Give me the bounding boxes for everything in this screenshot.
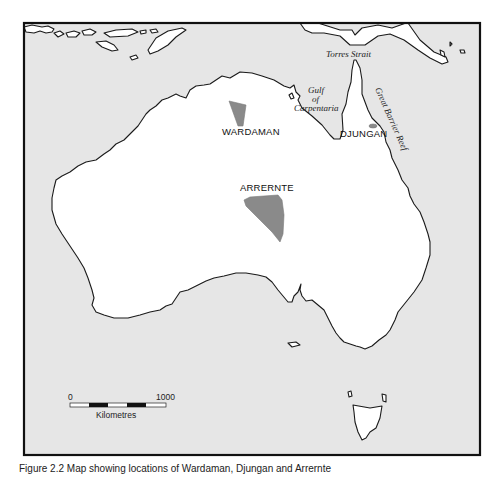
scale-unit-label: Kilometres <box>96 410 136 420</box>
wardaman-label: WARDAMAN <box>222 126 280 137</box>
torres-strait-label: Torres Strait <box>326 49 372 59</box>
bass-strait-island-west <box>348 391 352 397</box>
gulf-label-line3: Carpentaria <box>294 103 339 113</box>
djungan-label: DJUNGAN <box>340 128 387 139</box>
bass-strait-island-east <box>382 394 386 402</box>
arrernte-label: ARRERNTE <box>240 182 294 193</box>
scale-end-label: 1000 <box>156 392 175 402</box>
scale-start-label: 0 <box>68 392 73 402</box>
figure-caption: Figure 2.2 Map showing locations of Ward… <box>19 463 331 474</box>
